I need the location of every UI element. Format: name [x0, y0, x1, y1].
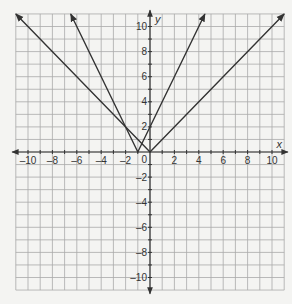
y-tick-label: 10: [136, 21, 148, 32]
x-tick-label: 4: [196, 155, 202, 166]
y-tick-label: –2: [136, 172, 148, 183]
y-axis-label: y: [154, 13, 162, 25]
x-tick-label: 6: [220, 155, 226, 166]
y-tick-label: –4: [136, 197, 148, 208]
y-tick-label: 6: [141, 71, 147, 82]
y-tick-label: 4: [141, 96, 147, 107]
x-tick-label: 10: [266, 155, 278, 166]
y-tick-label: –10: [130, 272, 147, 283]
y-tick-label: 2: [141, 121, 147, 132]
absolute-value-graph: –10–8–6–4–2246810–10–8–6–4–22468100xy: [0, 0, 292, 304]
x-tick-label: –8: [47, 155, 59, 166]
x-tick-label: –2: [120, 155, 132, 166]
x-tick-label: –10: [20, 155, 37, 166]
origin-label: 0: [141, 154, 147, 165]
x-tick-label: –6: [71, 155, 83, 166]
y-tick-label: 8: [141, 46, 147, 57]
x-tick-label: –4: [96, 155, 108, 166]
y-tick-label: –8: [136, 247, 148, 258]
x-tick-label: 2: [172, 155, 178, 166]
x-tick-label: 8: [245, 155, 251, 166]
x-axis-label: x: [276, 138, 283, 150]
y-tick-label: –6: [136, 222, 148, 233]
